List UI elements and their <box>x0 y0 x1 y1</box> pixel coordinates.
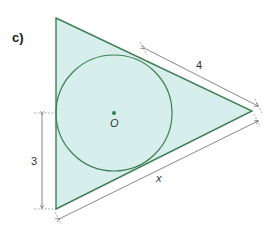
dimension-3 <box>34 113 56 209</box>
tangent-length-label: 4 <box>196 59 202 71</box>
height-segment-label: 3 <box>31 155 37 167</box>
triangle <box>56 18 252 209</box>
triangle-incircle-diagram <box>0 0 275 234</box>
part-label: c) <box>12 30 24 45</box>
center-point-dot <box>112 111 116 115</box>
unknown-side-label: x <box>156 172 162 184</box>
center-label: O <box>110 117 119 129</box>
